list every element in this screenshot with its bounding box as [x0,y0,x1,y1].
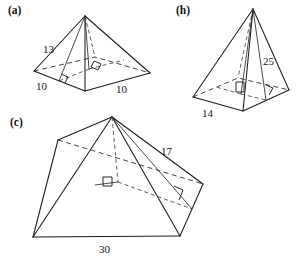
pyramid-a-edge-apex-left [34,16,85,71]
pyramid-a-right-angle-altitude [91,61,101,70]
pyramid-a-base-front-edges [34,71,150,91]
pyramid-c-base-median-left [95,182,118,185]
pyramids-diagram: (a) 13 10 10 (h) [0,0,297,261]
pyramid-c-right-angle-altitude [103,177,112,186]
part-a-label: (a) [8,4,22,17]
pyramid-a-base-left-label: 10 [36,80,48,92]
pyramid-c-edge-apex-front [112,117,180,236]
pyramid-c-slant-label: 17 [161,145,173,157]
pyramid-a-slant-segment [59,16,85,81]
pyramid-c-base-label: 30 [99,243,111,255]
pyramid-c-edge-apex-right [112,117,203,184]
pyramid-c-base-front-edge [33,236,180,237]
pyramid-b-right-angle-slant [266,85,273,95]
pyramid-c-edge-apex-left [33,117,112,237]
pyramid-c-base-left-edge [33,140,58,237]
pyramid-a-edge-apex-right [85,16,150,73]
pyramid-b-slant-label: 25 [263,55,275,67]
pyramid-c-base-back-edge [58,140,203,184]
pyramid-a-slant-label: 13 [43,43,55,55]
pyramid-b-base-label: 14 [202,107,214,119]
pyramid-b-base-median-left [216,87,241,94]
geometry-figure-sheet: (a) 13 10 10 (h) [0,0,297,261]
pyramid-a-base-right-label: 10 [116,83,128,95]
pyramid-c: (c) 17 30 [10,116,203,255]
part-c-label: (c) [10,116,23,129]
pyramid-b: (h) 25 14 [176,4,289,119]
pyramid-c-slant-segment [112,117,192,209]
part-b-label: (h) [176,4,190,17]
pyramid-a: (a) 13 10 10 [8,4,150,95]
pyramid-c-base-right-edge [180,184,203,236]
